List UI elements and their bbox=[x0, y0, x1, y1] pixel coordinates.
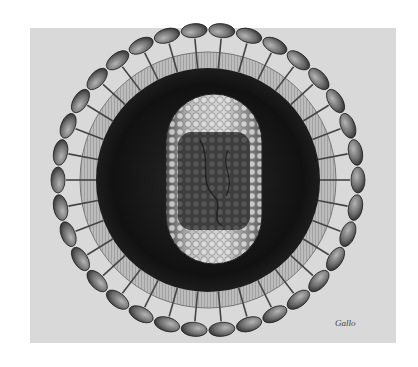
spike-head bbox=[126, 34, 156, 58]
spike-head bbox=[208, 22, 235, 38]
spike-head bbox=[351, 167, 365, 193]
spike-head bbox=[83, 267, 111, 296]
spike-head bbox=[153, 314, 182, 335]
spike-head bbox=[181, 22, 208, 38]
spike-head bbox=[57, 111, 79, 140]
spike-head bbox=[68, 244, 94, 273]
spike-head bbox=[346, 193, 365, 221]
spike-head bbox=[323, 86, 349, 115]
spike-head bbox=[51, 138, 70, 166]
spike-head bbox=[68, 86, 94, 115]
spike-head bbox=[57, 220, 79, 249]
spike-head bbox=[260, 302, 290, 326]
spike-head bbox=[153, 25, 182, 46]
spike-head bbox=[323, 244, 349, 273]
spike-head bbox=[305, 267, 333, 296]
spike-head bbox=[337, 111, 359, 140]
spike-head bbox=[103, 47, 132, 74]
spike-head bbox=[51, 193, 70, 221]
spike-head bbox=[337, 220, 359, 249]
spike-head bbox=[284, 286, 313, 313]
artist-signature: Gallo bbox=[335, 318, 356, 328]
spike-head bbox=[126, 302, 156, 326]
spike-head bbox=[181, 321, 208, 337]
spike-head bbox=[83, 65, 111, 94]
spike-head bbox=[208, 321, 235, 337]
spike-head bbox=[346, 138, 365, 166]
spike-head bbox=[260, 34, 290, 58]
capsid-core bbox=[178, 132, 250, 230]
spike-head bbox=[103, 286, 132, 313]
spike-head bbox=[305, 65, 333, 94]
spike-head bbox=[284, 47, 313, 74]
spike-head bbox=[235, 25, 264, 46]
virus-illustration bbox=[0, 0, 418, 367]
spike-head bbox=[51, 167, 65, 193]
spike-head bbox=[235, 314, 264, 335]
